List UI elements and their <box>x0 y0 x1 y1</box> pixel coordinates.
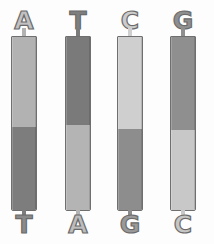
base-pair-column-t-a: T A <box>56 0 100 244</box>
base-pair-bar-t-a <box>65 36 91 211</box>
bar-segment-bottom <box>118 129 142 210</box>
bottom-base-label-g: G <box>108 212 152 237</box>
base-pair-column-c-g: C G <box>108 0 152 244</box>
base-pair-diagram: A T T A C G G <box>0 0 214 244</box>
bottom-base-label-c: C <box>161 212 205 237</box>
bar-segment-bottom <box>171 130 195 210</box>
bar-segment-top <box>12 37 36 127</box>
bar-segment-top <box>171 37 195 130</box>
base-pair-bar-g-c <box>170 36 196 211</box>
bar-segment-bottom <box>66 125 90 210</box>
base-pair-column-g-c: G C <box>161 0 205 244</box>
base-pair-column-a-t: A T <box>2 0 46 244</box>
base-pair-bar-a-t <box>11 36 37 211</box>
bar-segment-bottom <box>12 127 36 210</box>
bar-segment-top <box>66 37 90 125</box>
bottom-base-label-a: A <box>56 212 100 237</box>
bottom-base-label-t: T <box>2 212 46 237</box>
base-pair-bar-c-g <box>117 36 143 211</box>
bar-segment-top <box>118 37 142 129</box>
